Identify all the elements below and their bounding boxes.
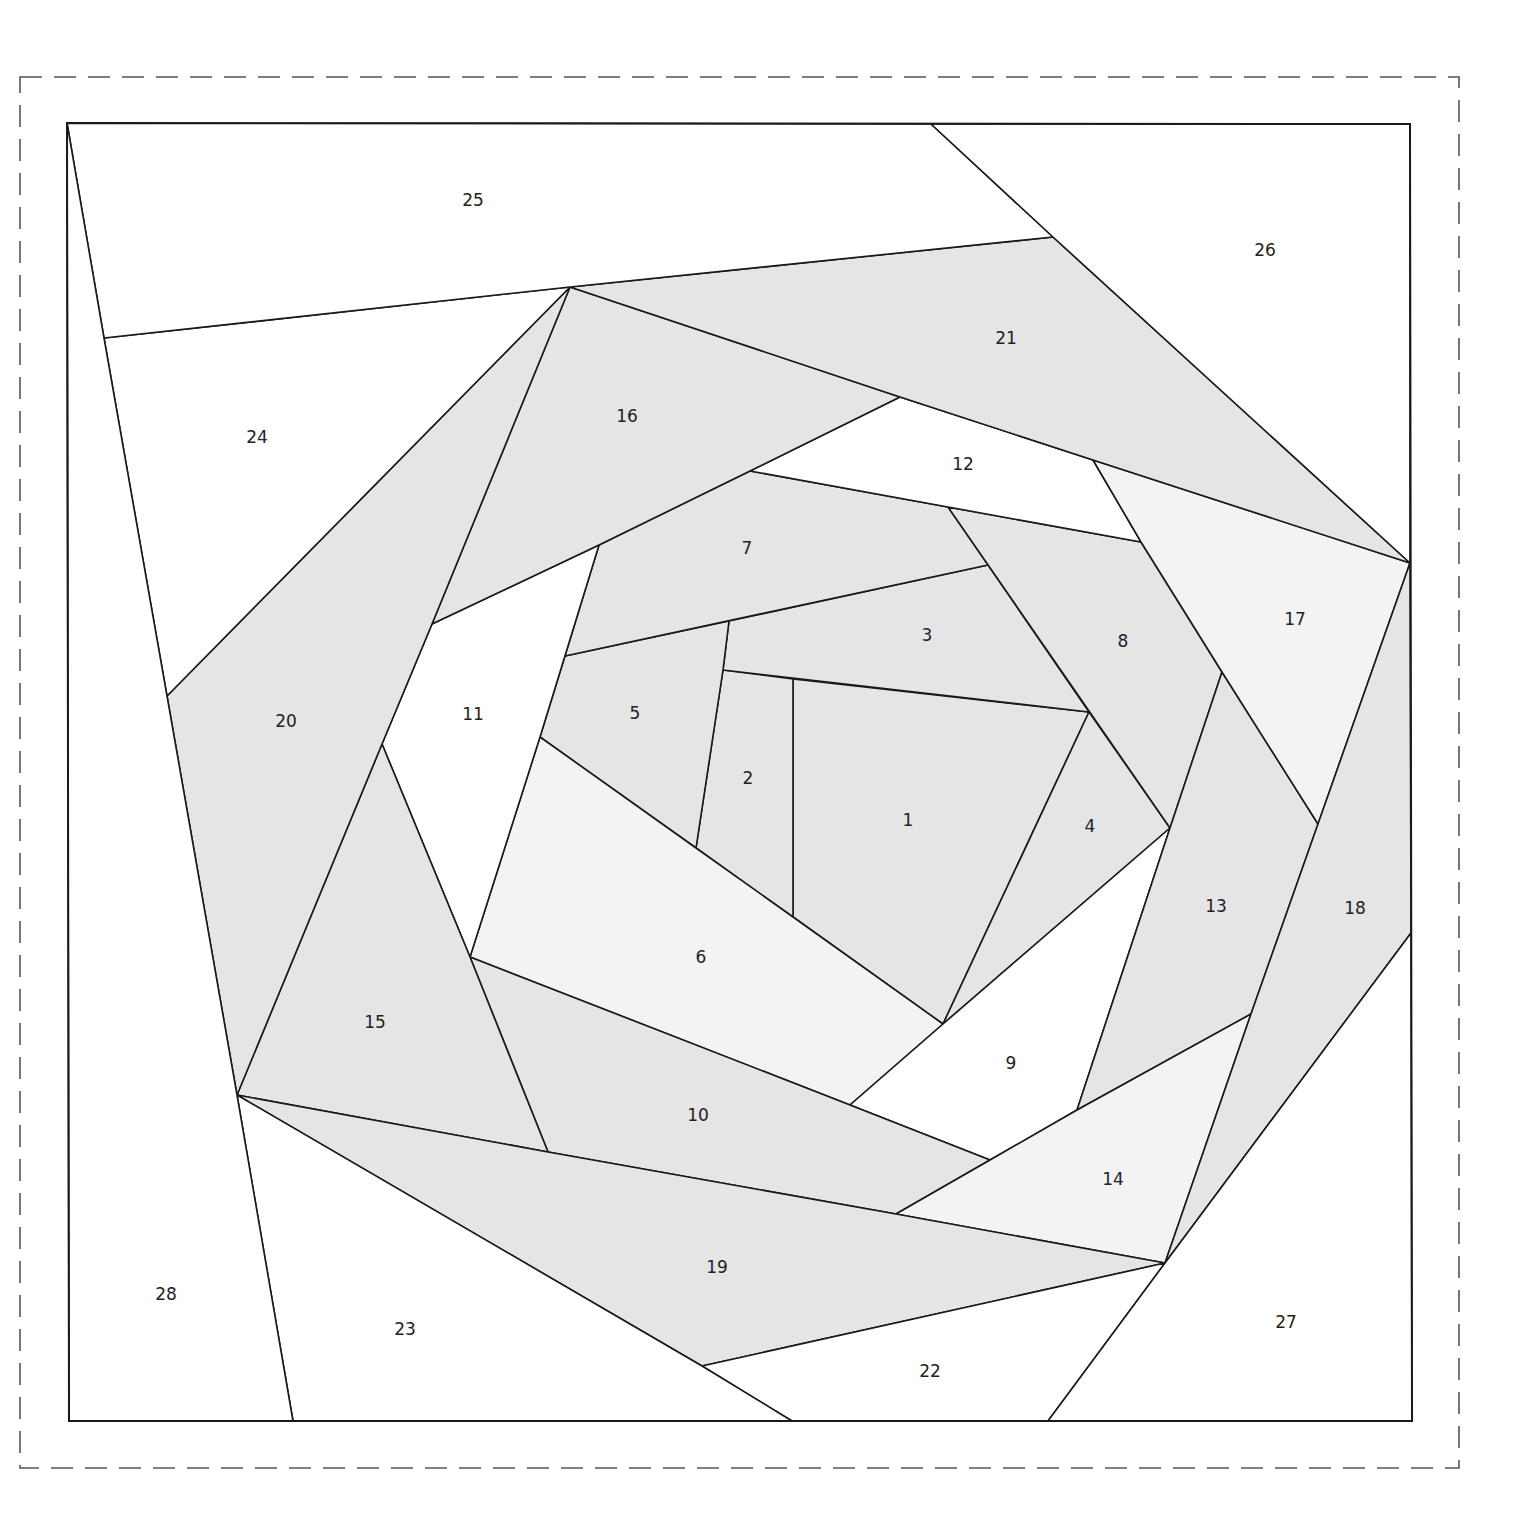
piece-label-23: 23: [394, 1319, 416, 1339]
piece-label-6: 6: [696, 947, 707, 967]
piece-label-18: 18: [1344, 898, 1366, 918]
piece-label-15: 15: [364, 1012, 386, 1032]
quilt-block-pattern: 1234567891011121314151617181920212223242…: [0, 0, 1527, 1529]
piece-label-9: 9: [1006, 1053, 1017, 1073]
piece-label-20: 20: [275, 711, 297, 731]
piece-label-21: 21: [995, 328, 1017, 348]
piece-label-7: 7: [742, 538, 753, 558]
piece-label-11: 11: [462, 704, 484, 724]
piece-label-12: 12: [952, 454, 974, 474]
piece-label-4: 4: [1085, 816, 1096, 836]
piece-label-13: 13: [1205, 896, 1227, 916]
piece-label-27: 27: [1275, 1312, 1297, 1332]
piece-label-5: 5: [630, 703, 641, 723]
piece-label-22: 22: [919, 1361, 941, 1381]
pattern-pieces: [67, 123, 1412, 1421]
piece-label-26: 26: [1254, 240, 1276, 260]
piece-label-8: 8: [1118, 631, 1129, 651]
piece-label-28: 28: [155, 1284, 177, 1304]
piece-label-17: 17: [1284, 609, 1306, 629]
piece-label-19: 19: [706, 1257, 728, 1277]
piece-label-3: 3: [922, 625, 933, 645]
piece-label-1: 1: [903, 810, 914, 830]
piece-label-10: 10: [687, 1105, 709, 1125]
piece-label-24: 24: [246, 427, 268, 447]
piece-label-16: 16: [616, 406, 638, 426]
piece-label-2: 2: [743, 768, 754, 788]
piece-label-25: 25: [462, 190, 484, 210]
piece-label-14: 14: [1102, 1169, 1124, 1189]
